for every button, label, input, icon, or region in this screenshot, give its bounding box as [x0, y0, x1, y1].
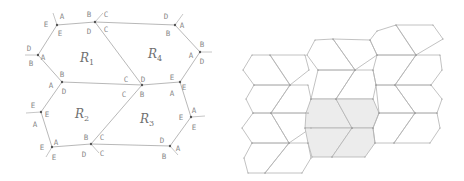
tile-vertex: [245, 98, 246, 99]
tile-vertex: [270, 112, 271, 113]
tile: [243, 55, 290, 85]
tile-vertex: [251, 142, 252, 143]
tile: [307, 39, 355, 70]
tile-vertex: [242, 69, 243, 70]
tile: [395, 55, 442, 85]
tile: [311, 70, 355, 99]
tile-vertex: [375, 84, 376, 85]
tile-vertex: [304, 54, 305, 55]
tile-vertex: [332, 38, 333, 39]
tile-vertex: [432, 24, 433, 25]
tile-vertex: [376, 30, 377, 31]
tile: [242, 113, 289, 143]
tile: [244, 143, 289, 173]
tile-vertex: [308, 69, 309, 70]
tile: [333, 39, 377, 70]
tile-vertex: [269, 54, 270, 55]
tile-vertex: [305, 112, 306, 113]
tile: [394, 113, 440, 143]
tile: [396, 25, 443, 55]
tile-vertex: [439, 54, 440, 55]
tile-vertex: [430, 84, 431, 85]
tile-vertex: [243, 157, 244, 158]
tile-vertex: [253, 84, 254, 85]
tile-vertex: [374, 142, 375, 143]
tile-vertex: [441, 98, 442, 99]
tile-vertex: [264, 172, 265, 173]
tile-vertex: [436, 112, 437, 113]
tile-vertex: [369, 39, 370, 40]
tile: [270, 55, 309, 85]
tile: [395, 85, 442, 113]
tile-vertex: [376, 54, 377, 55]
tile-vertex: [304, 127, 305, 128]
tile-vertex: [372, 98, 373, 99]
tile-vertex: [442, 38, 443, 39]
tile-vertex: [301, 172, 302, 173]
tile-vertex: [378, 112, 379, 113]
tile-vertex: [306, 54, 307, 55]
tile-vertex: [372, 69, 373, 70]
tile: [373, 113, 415, 143]
tile: [246, 85, 290, 113]
tile-vertex: [314, 39, 315, 40]
tile-vertex: [414, 112, 415, 113]
tile-vertex: [307, 84, 308, 85]
tile-vertex: [441, 69, 442, 70]
tile-vertex: [241, 127, 242, 128]
right-tiling: [0, 0, 464, 181]
tile: [271, 85, 311, 113]
tile-vertex: [439, 127, 440, 128]
tile-vertex: [317, 69, 318, 70]
tile-vertex: [351, 127, 352, 128]
tile-vertex: [372, 127, 373, 128]
tile-vertex: [394, 84, 395, 85]
tile-vertex: [335, 98, 336, 99]
tile: [336, 70, 376, 99]
tile: [370, 25, 416, 55]
tile-vertex: [310, 157, 311, 158]
tile-vertex: [310, 98, 311, 99]
tile-vertex: [415, 54, 416, 55]
tile-vertex: [251, 54, 252, 55]
tile: [265, 143, 311, 173]
tile-vertex: [429, 142, 430, 143]
tile-vertex: [364, 156, 365, 157]
tile-vertex: [310, 127, 311, 128]
tile-vertex: [395, 24, 396, 25]
tile: [376, 85, 415, 113]
tile-vertex: [252, 112, 253, 113]
tile-vertex: [393, 142, 394, 143]
tile-vertex: [307, 112, 308, 113]
tile-vertex: [247, 172, 248, 173]
tile-vertex: [311, 156, 312, 157]
tile-vertex: [289, 84, 290, 85]
tile-vertex: [331, 156, 332, 157]
tile-vertex: [307, 142, 308, 143]
tile-vertex: [354, 69, 355, 70]
tile-vertex: [288, 142, 289, 143]
tile: [373, 55, 416, 85]
